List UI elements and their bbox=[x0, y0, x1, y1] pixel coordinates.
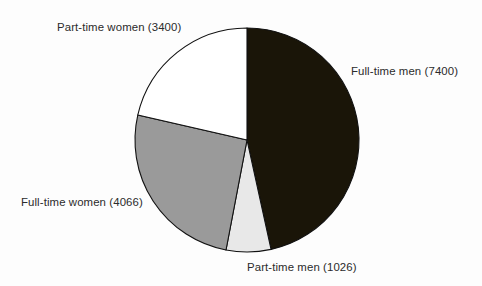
pie-chart: Part-time women (3400) Full-time men (74… bbox=[0, 0, 482, 286]
slice-label-full-time-men: Full-time men (7400) bbox=[351, 65, 458, 78]
slice-label-part-time-men: Part-time men (1026) bbox=[247, 261, 357, 274]
pie-chart-graphic bbox=[0, 0, 482, 286]
slice-label-full-time-women: Full-time women (4066) bbox=[21, 196, 143, 209]
slice-label-part-time-women: Part-time women (3400) bbox=[57, 21, 181, 34]
